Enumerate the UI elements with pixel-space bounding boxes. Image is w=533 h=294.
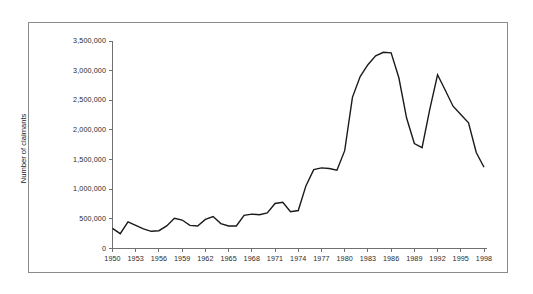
line-series-number-of-claimants (113, 52, 485, 233)
axes-group (113, 41, 488, 249)
y-axis-title: Number of claimants (19, 89, 28, 209)
y-axis-ticks (109, 41, 113, 249)
x-axis-ticks (113, 249, 485, 253)
y-tick-label: 3,000,000 (40, 66, 106, 75)
y-tick-label: 1,000,000 (40, 184, 106, 193)
data-series-group (113, 52, 485, 233)
y-tick-label: 1,500,000 (40, 155, 106, 164)
chart-plot-area: Number of claimants 0500,0001,000,0001,5… (0, 0, 533, 294)
y-tick-label: 2,500,000 (40, 95, 106, 104)
y-tick-label: 3,500,000 (40, 36, 106, 45)
y-tick-label: 0 (40, 244, 106, 253)
chart-figure: Number of claimants 0500,0001,000,0001,5… (0, 0, 533, 294)
x-tick-label: 1998 (470, 254, 498, 263)
y-tick-label: 500,000 (40, 214, 106, 223)
y-tick-label: 2,000,000 (40, 125, 106, 134)
